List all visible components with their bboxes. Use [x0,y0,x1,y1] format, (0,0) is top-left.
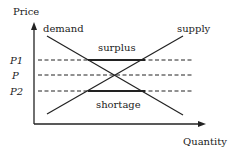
y-axis-arrow-icon [31,22,37,30]
supply-demand-diagram: Price Quantity demand supply surplus sho… [0,0,229,154]
p-label: P [11,70,19,81]
p2-label: P2 [9,86,23,97]
demand-label: demand [43,23,84,34]
p1-label: P1 [9,55,23,66]
supply-label: supply [177,23,211,34]
surplus-label: surplus [98,42,136,53]
y-axis-label: Price [13,6,39,17]
x-axis-label: Quantity [183,136,227,147]
shortage-label: shortage [96,99,141,110]
x-axis-arrow-icon [198,121,206,127]
